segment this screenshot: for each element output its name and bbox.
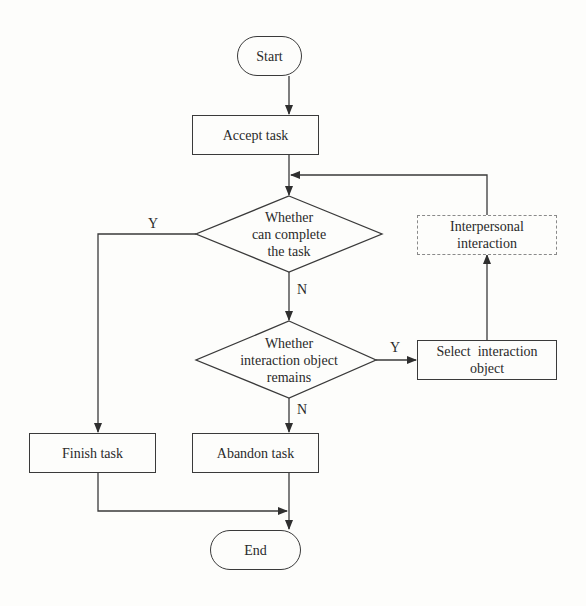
interpersonal-line-2: interaction (457, 235, 517, 252)
abandon-task-label: Abandon task (217, 445, 294, 462)
decision-remains-line-3: remains (267, 369, 311, 386)
edge-finish-to-end (98, 473, 287, 511)
interpersonal-line-1: Interpersonal (450, 218, 524, 235)
label-complete-yes: Y (148, 216, 158, 232)
abandon-task-node: Abandon task (192, 433, 319, 473)
select-interaction-object-node: Select interaction object (417, 340, 557, 380)
start-node: Start (237, 36, 302, 76)
select-object-line-2: object (470, 360, 504, 377)
decision-remains-node: Whether interaction object remains (219, 330, 359, 390)
decision-complete-line-3: the task (267, 243, 310, 260)
select-object-line-1: Select interaction (436, 343, 537, 360)
flowchart-connectors (0, 0, 586, 606)
start-label: Start (256, 48, 282, 65)
accept-task-label: Accept task (223, 127, 289, 144)
edge-complete-yes (98, 234, 196, 432)
interpersonal-interaction-node: Interpersonal interaction (417, 215, 557, 255)
decision-remains-line-1: Whether (265, 335, 313, 352)
accept-task-node: Accept task (192, 115, 319, 155)
label-remains-no: N (297, 402, 307, 418)
decision-complete-line-1: Whether (265, 209, 313, 226)
end-node: End (210, 530, 301, 570)
label-remains-yes: Y (390, 340, 400, 356)
decision-complete-node: Whether can complete the task (229, 204, 349, 264)
decision-complete-line-2: can complete (252, 226, 326, 243)
decision-remains-line-2: interaction object (240, 352, 338, 369)
finish-task-label: Finish task (62, 445, 123, 462)
finish-task-node: Finish task (29, 433, 156, 473)
label-complete-no: N (297, 282, 307, 298)
end-label: End (244, 542, 267, 559)
